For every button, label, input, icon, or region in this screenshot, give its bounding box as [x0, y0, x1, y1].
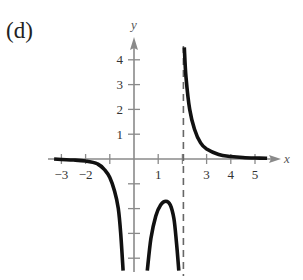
y-axis-label: y [129, 17, 137, 32]
axes [48, 37, 281, 272]
y-tick-label: 2 [117, 102, 124, 117]
x-tick-label: −3 [54, 167, 68, 182]
x-tick-label: 4 [228, 167, 235, 182]
x-tick-label: 1 [155, 167, 162, 182]
right-branch-curve [184, 47, 267, 158]
middle-branch-curve [147, 201, 179, 270]
y-tick-label: 3 [117, 77, 124, 92]
plot-area: −3−213454321xy [0, 0, 303, 280]
x-tick-label: 3 [203, 167, 210, 182]
x-axis-label: x [283, 151, 290, 166]
y-tick-label: 1 [117, 127, 124, 142]
y-tick-label: 4 [117, 52, 124, 67]
x-tick-label: 5 [252, 167, 259, 182]
x-tick-label: −2 [79, 167, 93, 182]
